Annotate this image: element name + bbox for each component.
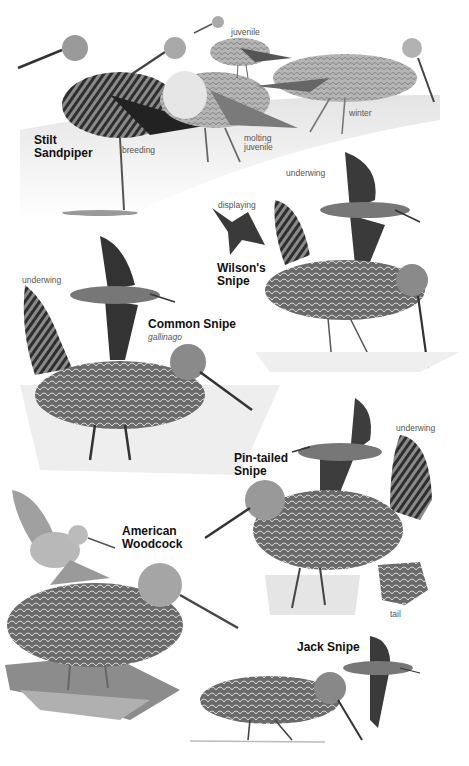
species-name-wilsons-snipe: Wilson's Snipe [217,262,266,288]
label-tail: tail [390,609,401,619]
label-breeding: breeding [122,145,155,155]
label-juvenile: juvenile [231,27,260,37]
species-name-pin-tailed-snipe: Pin-tailed Snipe [234,452,288,478]
label-pin-tailed-underwing: underwing [396,423,435,433]
species-name-american-woodcock: American Woodcock [122,525,182,551]
label-wilsons-underwing: underwing [286,168,325,178]
species-name-common-snipe: Common Snipe [148,318,236,331]
label-winter: winter [349,108,372,118]
label-displaying: displaying [218,200,256,210]
species-name-stilt-sandpiper: Stilt Sandpiper [34,134,93,160]
species-name-jack-snipe: Jack Snipe [297,641,360,654]
field-guide-plate: Stilt Sandpiper juvenile breeding moltin… [0,0,469,766]
label-common-underwing: underwing [22,275,61,285]
label-molting-juvenile: juvenile [244,142,273,152]
bird-illustrations [0,0,469,766]
subspecies-gallinago: gallinago [148,332,182,342]
stilt-sandpiper-illustrations [18,16,440,220]
